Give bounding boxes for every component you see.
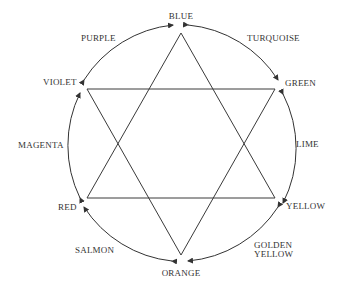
label-turquoise: TURQUOISE	[247, 33, 300, 43]
label-salmon: SALMON	[75, 245, 115, 255]
label-magenta: MAGENTA	[18, 140, 64, 150]
label-violet: VIOLET	[43, 77, 77, 87]
label-green: GREEN	[285, 78, 316, 88]
label-yellow: YELLOW	[286, 201, 325, 211]
label-lime: LIME	[296, 139, 319, 149]
label-orange: ORANGE	[162, 268, 201, 278]
triangle-blue-red-yellow	[87, 33, 275, 198]
arc-green-yellow	[283, 94, 296, 203]
label-purple: PURPLE	[81, 33, 116, 43]
triangle-orange-violet-green	[87, 89, 275, 255]
label-blue: BLUE	[169, 11, 194, 21]
arc-red-violet	[68, 93, 80, 198]
color-wheel-diagram: BLUE GREEN YELLOW ORANGE RED VIOLET TURQ…	[0, 0, 339, 293]
label-golden-yellow-line2: YELLOW	[254, 249, 293, 259]
label-red: RED	[58, 202, 77, 212]
